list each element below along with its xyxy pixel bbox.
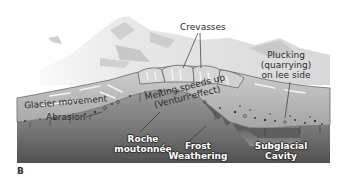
label-frost-line2: Weathering	[168, 151, 228, 161]
label-roche-line2: moutonnée	[112, 144, 174, 154]
label-plucking-line1: Plucking	[255, 50, 317, 60]
label-plucking-line3: on lee side	[255, 70, 317, 80]
label-cavity-line1: Subglacial	[252, 141, 310, 151]
panel-letter: B	[17, 166, 24, 176]
glacier-diagram: Crevasses Plucking (quarrying) on lee si…	[0, 0, 342, 177]
label-frost-line1: Frost	[168, 141, 228, 151]
label-roche-moutonnee: Roche moutonnée	[112, 134, 174, 154]
label-abrasion: Abrasion	[46, 112, 86, 122]
label-crevasses: Crevasses	[180, 22, 226, 32]
label-plucking-line2: (quarrying)	[255, 60, 317, 70]
label-roche-line1: Roche	[112, 134, 174, 144]
label-subglacial-cavity: Subglacial Cavity	[252, 141, 310, 161]
label-plucking: Plucking (quarrying) on lee side	[255, 50, 317, 80]
label-cavity-line2: Cavity	[252, 151, 310, 161]
label-frost-weathering: Frost Weathering	[168, 141, 228, 161]
